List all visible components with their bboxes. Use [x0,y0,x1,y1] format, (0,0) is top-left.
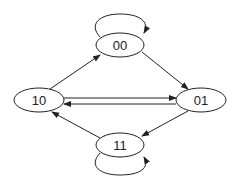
edge-11-to-10 [52,112,100,138]
node-11: 11 [96,133,144,157]
state-diagram: 00 01 10 11 [0,0,239,187]
node-label: 01 [194,93,208,108]
node-label: 10 [32,93,46,108]
edge-10-to-00 [50,55,100,89]
node-label: 11 [113,138,127,153]
edge-01-to-11 [142,111,188,136]
node-00: 00 [96,33,144,57]
node-label: 00 [113,38,127,53]
node-01: 01 [176,88,226,112]
node-10: 10 [14,88,64,112]
edge-00-to-01 [142,52,188,89]
